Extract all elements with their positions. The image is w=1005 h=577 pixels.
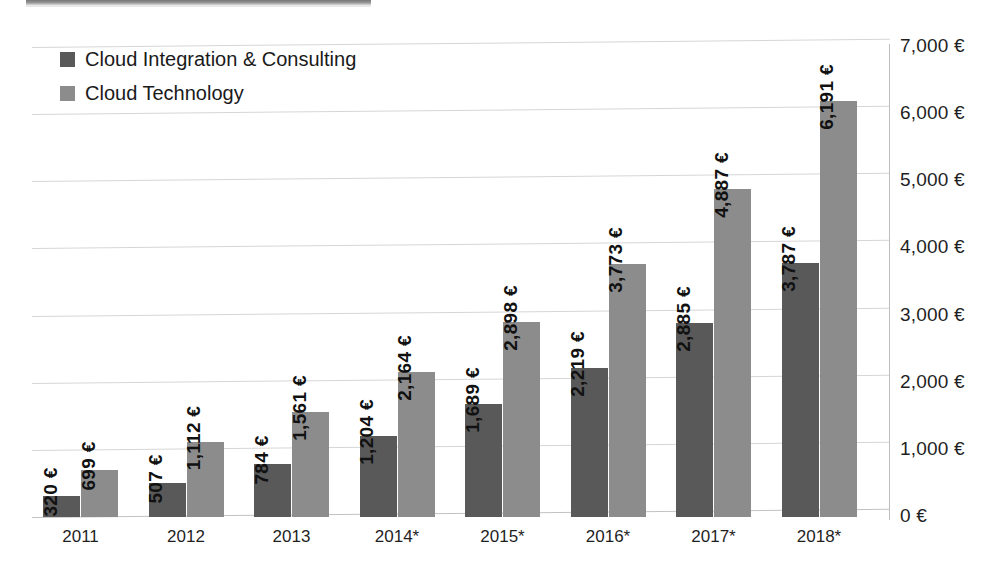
legend-swatch-icon	[60, 52, 75, 67]
bar-value-label: 3,787 €	[778, 226, 800, 292]
bar-group: 3,787 €6,191 €	[782, 47, 857, 517]
bar-value-label: 784 €	[251, 436, 273, 485]
y-axis-tick-label: 2,000 €	[900, 371, 995, 393]
bar[interactable]: 1,112 €	[187, 442, 224, 517]
bar-value-label: 507 €	[145, 454, 167, 503]
bar-group: 784 €1,561 €	[254, 47, 329, 517]
bar-group: 320 €699 €	[43, 47, 118, 517]
bar-value-label: 3,773 €	[605, 227, 627, 293]
legend-item-cloud-integration-consulting: Cloud Integration & Consulting	[60, 44, 460, 74]
x-axis-tick-label: 2013	[232, 527, 352, 547]
bar-value-label: 1,561 €	[289, 375, 311, 441]
bar-value-label: 1,689 €	[462, 367, 484, 433]
bar[interactable]: 2,164 €	[398, 372, 435, 517]
bar[interactable]: 784 €	[254, 464, 291, 517]
bar-chart: 320 €699 €507 €1,112 €784 €1,561 €1,204 …	[0, 0, 1005, 577]
bar-value-label: 320 €	[40, 467, 62, 516]
x-axis-tick-label: 2018*	[759, 527, 879, 547]
bar-value-label: 2,885 €	[673, 287, 695, 353]
bar[interactable]: 2,898 €	[503, 322, 540, 517]
y-axis-tick-label: 1,000 €	[900, 438, 995, 460]
plot-area: 320 €699 €507 €1,112 €784 €1,561 €1,204 …	[32, 47, 890, 517]
legend-item-label: Cloud Technology	[85, 82, 244, 105]
y-axis-tick-label: 5,000 €	[900, 169, 995, 191]
bar-value-label: 4,887 €	[711, 152, 733, 218]
bar-value-label: 1,112 €	[183, 406, 205, 470]
y-axis-tick-label: 0 €	[900, 505, 995, 527]
bar[interactable]: 507 €	[149, 483, 186, 517]
bar[interactable]: 320 €	[43, 496, 80, 517]
bar-group: 1,689 €2,898 €	[465, 47, 540, 517]
x-axis-tick-label: 2016*	[548, 527, 668, 547]
bar[interactable]: 1,689 €	[465, 404, 502, 517]
bar[interactable]: 699 €	[81, 470, 118, 517]
bar-value-label: 699 €	[78, 442, 100, 491]
bar[interactable]: 3,787 €	[782, 263, 819, 517]
bar[interactable]: 4,887 €	[714, 189, 751, 517]
bar-group: 2,219 €3,773 €	[571, 47, 646, 517]
y-axis-line	[889, 44, 890, 520]
bar[interactable]: 3,773 €	[609, 264, 646, 517]
bar-value-label: 6,191 €	[816, 65, 838, 131]
bar[interactable]: 1,561 €	[292, 412, 329, 517]
y-axis-tick-label: 6,000 €	[900, 102, 995, 124]
bar-value-label: 2,898 €	[500, 286, 522, 352]
bar-group: 1,204 €2,164 €	[360, 47, 435, 517]
bar-value-label: 1,204 €	[356, 399, 378, 465]
legend-swatch-icon	[60, 86, 75, 101]
y-axis-tick-label: 7,000 €	[900, 35, 995, 57]
bar[interactable]: 1,204 €	[360, 436, 397, 517]
bar[interactable]: 2,885 €	[676, 323, 713, 517]
x-axis-tick-label: 2011	[21, 527, 141, 547]
bar-group: 2,885 €4,887 €	[676, 47, 751, 517]
bar-value-label: 2,164 €	[394, 335, 416, 401]
x-axis-tick-label: 2015*	[443, 527, 563, 547]
bar[interactable]: 2,219 €	[571, 368, 608, 517]
legend-item-cloud-technology: Cloud Technology	[60, 78, 460, 108]
bar[interactable]: 6,191 €	[820, 101, 857, 517]
bar-group: 507 €1,112 €	[149, 47, 224, 517]
x-axis-tick-label: 2012	[126, 527, 246, 547]
bar-value-label: 2,219 €	[567, 331, 589, 397]
chart-legend: Cloud Integration & Consulting Cloud Tec…	[60, 44, 460, 112]
y-axis-tick-label: 4,000 €	[900, 236, 995, 258]
y-axis-tick-label: 3,000 €	[900, 304, 995, 326]
x-axis-tick-label: 2014*	[337, 527, 457, 547]
x-axis-tick-label: 2017*	[654, 527, 774, 547]
legend-item-label: Cloud Integration & Consulting	[85, 48, 356, 71]
